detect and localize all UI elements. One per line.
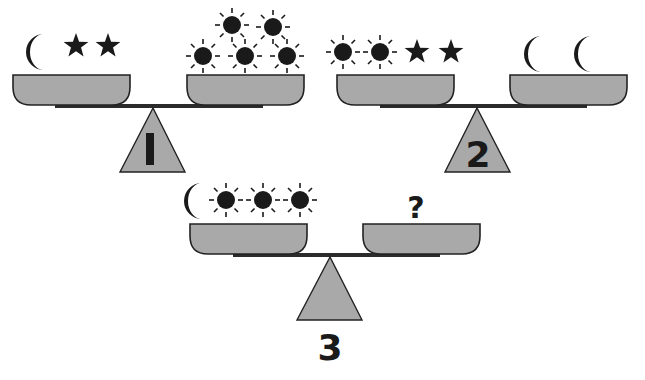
scale-number-3: 3: [317, 327, 342, 368]
sun-icon: [228, 39, 262, 73]
star-icon: [405, 39, 430, 63]
right-pan-items: [186, 8, 304, 73]
left-pan-items: [326, 35, 463, 69]
sun-icon: [256, 10, 290, 44]
scale-3: 3 ?: [184, 183, 480, 368]
right-pan: [510, 75, 627, 105]
star-icon: [64, 33, 89, 57]
left-pan: [190, 224, 307, 254]
moon-icon: [524, 36, 542, 72]
sun-icon: [363, 35, 397, 69]
left-pan-items: [184, 183, 317, 219]
star-icon: [96, 33, 121, 57]
balance-puzzle-canvas: 2 3 ?: [0, 0, 645, 380]
sun-icon: [246, 183, 280, 217]
left-pan: [13, 75, 130, 105]
left-pan-items: [26, 33, 120, 70]
scale-number-1: [146, 133, 154, 165]
moon-icon: [184, 183, 202, 219]
scale-1: [13, 8, 304, 172]
sun-icon: [270, 39, 304, 73]
right-pan: [187, 75, 304, 105]
sun-icon: [283, 183, 317, 217]
right-pan-items: ?: [407, 190, 424, 225]
scale-number-2: 2: [465, 134, 490, 175]
sun-icon: [215, 8, 249, 42]
sun-icon: [186, 39, 220, 73]
right-pan-items: [524, 36, 592, 72]
star-icon: [439, 39, 464, 63]
left-pan: [337, 75, 454, 105]
sun-icon: [326, 35, 360, 69]
question-mark: ?: [407, 190, 424, 225]
sun-icon: [209, 183, 243, 217]
moon-icon: [26, 34, 44, 70]
right-pan: [363, 224, 480, 254]
moon-icon: [574, 36, 592, 72]
scale-2: 2: [326, 35, 627, 175]
fulcrum: [297, 257, 362, 320]
